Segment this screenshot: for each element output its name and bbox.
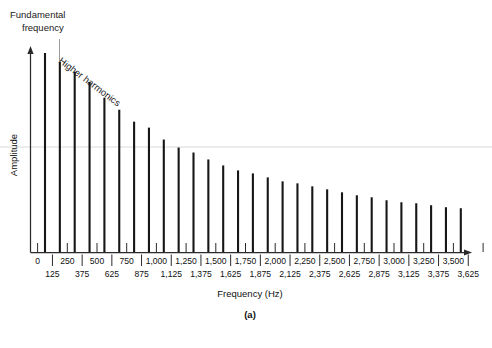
x-tick-label-upper: 2,750 [354,256,376,266]
x-tick-label-upper: 3,500 [443,256,465,266]
spectrum-plot: 02505007501,0001,2501,5001,7502,0002,250… [0,0,492,348]
x-tick-label-lower: 2,125 [279,269,301,279]
fundamental-annotation-line2: frequency [22,22,64,33]
x-tick-label-upper: 250 [60,256,75,266]
x-tick-label-lower: 1,625 [220,269,242,279]
x-tick-label-lower: 3,375 [428,269,450,279]
x-tick-label-lower: 875 [134,269,149,279]
x-tick-label-upper: 2,500 [324,256,346,266]
x-tick-label-upper: 1,750 [235,256,257,266]
x-tick-label-lower: 1,125 [160,269,182,279]
x-tick-label-upper: 2,000 [264,256,286,266]
x-tick-label-upper: 1,000 [146,256,168,266]
x-tick-label-upper: 1,500 [205,256,227,266]
x-tick-label-upper: 3,000 [383,256,405,266]
x-tick-label-upper: 2,250 [294,256,316,266]
x-tick-label-lower: 2,875 [368,269,390,279]
x-tick-label-upper: 750 [120,256,135,266]
x-tick-label-lower: 625 [105,269,120,279]
x-tick-label-lower: 3,125 [398,269,420,279]
y-axis-title: Amplitude [8,134,19,176]
x-tick-label-lower: 2,375 [309,269,331,279]
x-tick-labels-upper: 02505007501,0001,2501,5001,7502,0002,250… [35,256,464,266]
x-tick-label-lower: 375 [75,269,90,279]
x-axis-title: Frequency (Hz) [217,288,282,299]
fundamental-annotation-line1: Fundamental [10,9,65,20]
x-tick-label-lower: 1,375 [190,269,212,279]
x-tick-label-upper: 1,250 [175,256,197,266]
x-tick-label-lower: 3,625 [457,269,479,279]
x-tick-label-lower: 1,875 [250,269,272,279]
x-tick-label-upper: 500 [90,256,105,266]
x-tick-label-upper: 3,250 [413,256,435,266]
harmonic-spectrum-figure: 02505007501,0001,2501,5001,7502,0002,250… [0,0,492,348]
x-tick-label-lower: 125 [45,269,60,279]
x-tick-labels-lower: 1253756258751,1251,3751,6251,8752,1252,3… [45,269,479,279]
panel-label: (a) [244,309,256,320]
x-tick-label-lower: 2,625 [339,269,361,279]
x-tick-label-upper: 0 [35,256,40,266]
